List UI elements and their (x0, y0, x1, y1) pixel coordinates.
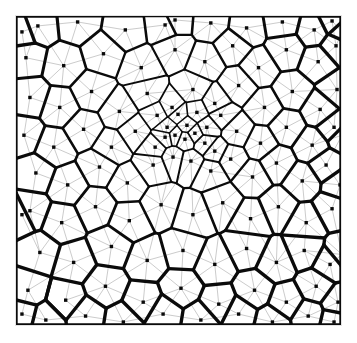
site-marker (332, 126, 335, 129)
site-marker (171, 155, 174, 158)
site-marker (76, 20, 79, 23)
site-marker (128, 219, 131, 222)
site-marker (245, 26, 248, 29)
site-marker (195, 111, 198, 114)
site-marker (257, 66, 260, 69)
site-marker (34, 171, 37, 174)
voronoi-delaunay-diagram (16, 16, 341, 325)
site-marker (118, 110, 121, 113)
site-marker (332, 320, 335, 323)
site-marker (122, 320, 125, 323)
site-marker (94, 205, 97, 208)
site-marker (20, 213, 23, 216)
site-marker (310, 143, 313, 146)
figure-root (0, 0, 357, 343)
site-marker (98, 165, 101, 168)
voronoi-edge (255, 124, 268, 125)
site-marker (153, 145, 156, 148)
site-marker (209, 169, 212, 172)
site-marker (170, 106, 173, 109)
site-marker (203, 60, 206, 63)
site-marker (140, 66, 143, 69)
site-marker (179, 287, 182, 290)
voronoi-edge (89, 186, 106, 188)
site-marker (334, 44, 337, 47)
site-marker (330, 19, 333, 22)
site-marker (189, 159, 192, 162)
site-marker (58, 106, 61, 109)
site-marker (110, 245, 113, 248)
site-marker (62, 64, 65, 67)
site-marker (338, 183, 341, 186)
site-marker (231, 44, 234, 47)
site-marker (330, 207, 333, 210)
site-marker (237, 84, 240, 87)
site-marker (134, 130, 137, 133)
site-marker (159, 203, 162, 206)
site-marker (191, 88, 194, 91)
site-marker (20, 312, 23, 315)
site-marker (90, 90, 93, 93)
site-marker (340, 253, 341, 256)
site-marker (146, 92, 149, 95)
voronoi-edge (50, 85, 69, 87)
site-marker (183, 138, 186, 141)
site-marker (316, 60, 319, 63)
site-marker (102, 52, 105, 55)
site-marker (176, 113, 179, 116)
site-marker (249, 217, 252, 220)
site-marker (203, 141, 206, 144)
site-marker (146, 259, 149, 262)
site-marker (314, 285, 317, 288)
site-marker (229, 157, 232, 160)
site-marker (213, 149, 216, 152)
voronoi-edge (192, 16, 194, 35)
site-marker (303, 249, 306, 252)
site-marker (36, 24, 39, 27)
site-marker (245, 247, 248, 250)
site-marker (219, 114, 222, 117)
site-marker (340, 30, 341, 33)
voronoi-edge (228, 16, 230, 28)
site-marker (253, 289, 256, 292)
voronoi-edge (169, 76, 170, 83)
site-marker (221, 201, 224, 204)
site-marker (173, 18, 176, 21)
site-marker (84, 314, 87, 317)
site-marker (28, 96, 31, 99)
site-marker (305, 221, 308, 224)
site-marker (271, 320, 274, 323)
voronoi-edge (117, 201, 139, 202)
site-marker (28, 209, 31, 212)
site-marker (173, 48, 176, 51)
site-marker (336, 300, 339, 303)
site-marker (312, 28, 315, 31)
site-marker (335, 88, 338, 91)
site-marker (235, 130, 238, 133)
site-marker (340, 134, 341, 137)
site-marker (82, 128, 85, 131)
site-marker (213, 102, 216, 105)
site-marker (277, 205, 280, 208)
site-marker (285, 300, 288, 303)
site-marker (275, 261, 278, 264)
site-marker (173, 134, 176, 137)
site-marker (185, 124, 188, 127)
site-marker (263, 106, 266, 109)
voronoi-edge (305, 45, 319, 47)
site-marker (291, 90, 294, 93)
site-marker (163, 136, 166, 139)
site-marker (124, 28, 127, 31)
site-marker (281, 20, 284, 23)
voronoi-edge (299, 201, 311, 202)
site-marker (44, 318, 47, 321)
site-marker (20, 30, 23, 33)
site-marker (26, 289, 29, 292)
site-marker (66, 183, 69, 186)
site-marker (64, 298, 67, 301)
site-marker (126, 181, 129, 184)
site-marker (301, 179, 304, 182)
site-marker (307, 314, 310, 317)
site-marker (285, 126, 288, 129)
site-marker (38, 251, 41, 254)
